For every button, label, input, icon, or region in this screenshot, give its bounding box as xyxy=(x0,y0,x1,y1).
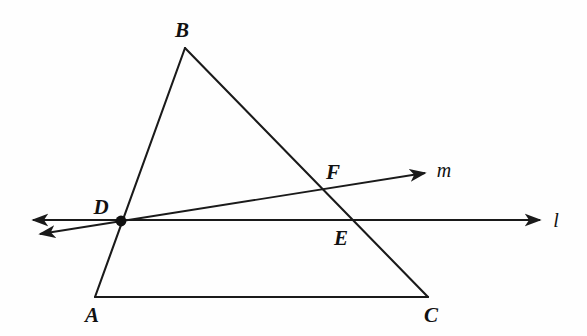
line-label-m: m xyxy=(437,160,451,180)
geometry-drawing xyxy=(0,0,587,336)
point-label-a: A xyxy=(85,305,99,326)
point-label-b: B xyxy=(175,20,189,41)
segment-ab xyxy=(95,48,185,297)
point-label-c: C xyxy=(424,305,438,326)
line-label-l: l xyxy=(553,210,559,230)
point-label-e: E xyxy=(334,228,348,249)
point-d-marker xyxy=(116,216,127,227)
point-label-d: D xyxy=(93,197,108,218)
geometry-figure: A B C D E F l m xyxy=(0,0,587,336)
segment-bc xyxy=(185,48,428,297)
triangle-abc xyxy=(95,48,428,297)
point-label-f: F xyxy=(326,162,340,183)
